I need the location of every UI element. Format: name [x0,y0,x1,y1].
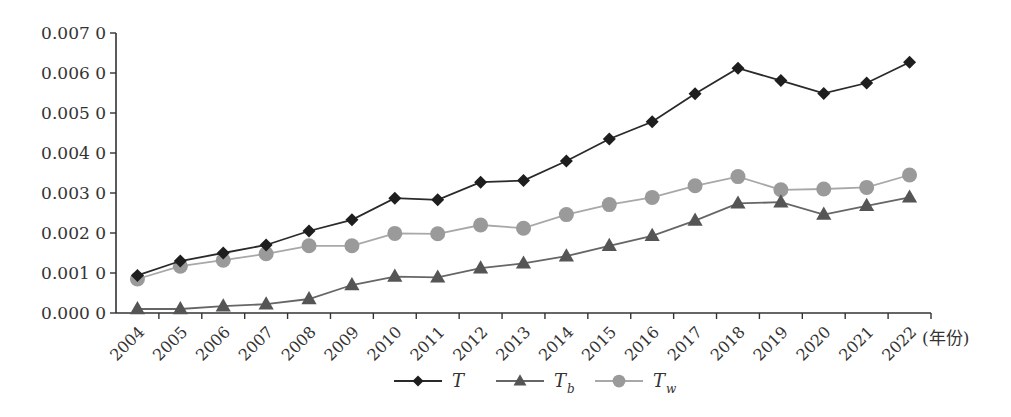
x-tick-label: 2005 [149,322,191,364]
diamond-marker [303,225,316,238]
circle-marker [473,218,488,233]
circle-marker [602,197,617,212]
legend-item-t-b: Tb [496,370,575,396]
x-tick-label: 2006 [192,322,234,364]
triangle-marker [387,269,402,282]
series-t-b [130,189,917,314]
x-tick-label: 2007 [235,322,277,364]
circle-marker [516,221,531,236]
x-tick-label: 2017 [664,322,706,364]
x-tick-label: 2018 [707,322,749,364]
diamond-marker [817,87,830,100]
x-tick-label: 2020 [792,322,834,364]
diamond-marker [431,193,444,206]
triangle-marker [514,374,527,385]
diamond-marker [603,133,616,146]
diamond-marker [388,192,401,205]
circle-marker [859,180,874,195]
circle-marker [559,207,574,222]
circle-marker [902,168,917,183]
diamond-marker [689,87,702,100]
x-tick-label: 2013 [492,322,534,364]
x-tick-label: 2014 [535,322,577,364]
x-tick-label: 2012 [449,322,491,364]
circle-marker [688,178,703,193]
circle-marker [613,375,626,388]
y-axis: 0.000 00.001 00.002 00.003 00.004 00.005… [41,23,116,323]
x-tick-label: 2015 [578,322,620,364]
y-tick-label: 0.003 0 [41,183,106,203]
diamond-marker [517,174,530,187]
triangle-marker [130,301,145,314]
x-axis: 2004200520062007200820092010201120122013… [106,313,931,365]
x-tick-label: 2021 [835,322,877,364]
legend-label: T [452,370,466,391]
y-tick-label: 0.002 0 [41,223,106,243]
legend-label: Tb [554,370,575,396]
circle-marker [430,226,445,241]
triangle-marker [216,298,231,311]
diamond-marker [560,155,573,168]
diamond-marker [731,62,744,75]
triangle-marker [773,194,788,207]
x-tick-label: 2009 [321,322,363,364]
circle-marker [344,238,359,253]
circle-marker [816,182,831,197]
x-tick-label: 2004 [106,322,148,364]
series-t [131,56,916,282]
line-chart: 0.000 00.001 00.002 00.003 00.004 00.005… [0,0,1011,417]
legend-item-t-w: Tw [595,370,677,396]
y-tick-label: 0.001 0 [41,263,106,283]
diamond-marker [646,115,659,128]
diamond-marker [860,77,873,90]
x-tick-label: 2016 [621,322,663,364]
x-axis-unit-label: (年份) [922,328,969,348]
x-tick-label: 2022 [878,322,920,364]
y-tick-label: 0.004 0 [41,143,106,163]
x-tick-label: 2010 [363,322,405,364]
legend-item-t: T [394,370,466,391]
plot-area [130,56,917,315]
x-tick-label: 2019 [749,322,791,364]
triangle-marker [173,301,188,314]
x-tick-label: 2008 [278,322,320,364]
triangle-marker [902,189,917,202]
diamond-marker [903,56,916,69]
triangle-marker [730,195,745,208]
diamond-marker [474,176,487,189]
y-tick-label: 0.006 0 [41,63,106,83]
diamond-marker [412,375,423,386]
legend: TTbTw [394,370,677,396]
circle-marker [302,238,317,253]
y-tick-label: 0.007 0 [41,23,106,43]
circle-marker [645,190,660,205]
y-tick-label: 0.005 0 [41,103,106,123]
diamond-marker [345,213,358,226]
legend-label: Tw [653,370,677,396]
circle-marker [387,226,402,241]
diamond-marker [774,74,787,87]
y-tick-label: 0.000 0 [41,303,106,323]
x-tick-label: 2011 [406,322,448,364]
circle-marker [730,169,745,184]
